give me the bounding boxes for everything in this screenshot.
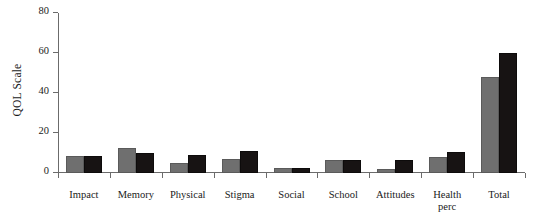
bar-group	[118, 13, 154, 173]
bar	[292, 168, 310, 173]
bar	[136, 153, 154, 173]
bar-group	[429, 13, 465, 173]
x-tick	[214, 173, 215, 178]
x-category-label: Stigma	[214, 189, 266, 201]
bar-group	[481, 13, 517, 173]
y-tick: 20	[53, 132, 58, 133]
bar	[325, 160, 343, 173]
x-category-label: Health perc	[421, 189, 473, 213]
y-tick: 40	[53, 92, 58, 93]
bar	[66, 156, 84, 173]
y-axis-line	[58, 13, 59, 173]
bar-group	[66, 13, 102, 173]
qol-scale-bar-chart: QOL Scale 020406080 ImpactMemoryPhysical…	[0, 0, 540, 213]
x-category-label: Physical	[162, 189, 214, 201]
bar	[84, 156, 102, 173]
x-tick	[162, 173, 163, 178]
bar	[343, 160, 361, 173]
bar	[377, 169, 395, 173]
bar-group	[222, 13, 258, 173]
y-tick: 60	[53, 52, 58, 53]
y-axis-title-text: QOL Scale	[11, 64, 23, 117]
bar	[499, 53, 517, 173]
y-tick-label: 20	[39, 125, 50, 136]
bar	[222, 159, 240, 173]
x-tick	[421, 173, 422, 178]
bar	[447, 152, 465, 173]
bar-group	[377, 13, 413, 173]
bar	[481, 77, 499, 173]
x-tick	[473, 173, 474, 178]
bar	[118, 148, 136, 173]
x-category-label: Memory	[110, 189, 162, 201]
y-tick: 80	[53, 12, 58, 13]
bar-group	[170, 13, 206, 173]
bar-group	[274, 13, 310, 173]
y-tick-label: 60	[39, 45, 50, 56]
x-category-label: Impact	[58, 189, 110, 201]
x-category-label: Total	[473, 189, 525, 201]
x-tick	[266, 173, 267, 178]
bar-group	[325, 13, 361, 173]
bar	[395, 160, 413, 173]
x-category-label: Social	[266, 189, 318, 201]
bar	[274, 168, 292, 173]
bar	[429, 157, 447, 173]
y-tick-label: 40	[39, 85, 50, 96]
x-tick	[58, 173, 59, 178]
x-tick	[369, 173, 370, 178]
y-tick-label: 80	[39, 5, 50, 16]
bar	[170, 163, 188, 173]
bar	[240, 151, 258, 173]
bar	[188, 155, 206, 173]
x-category-label: Attitudes	[369, 189, 421, 201]
x-category-label: School	[317, 189, 369, 201]
x-tick	[110, 173, 111, 178]
plot-area: 020406080 ImpactMemoryPhysicalStigmaSoci…	[58, 13, 525, 173]
y-tick-label: 0	[44, 165, 49, 176]
y-axis-title: QOL Scale	[6, 0, 28, 180]
x-tick	[317, 173, 318, 178]
x-tick	[525, 173, 526, 178]
